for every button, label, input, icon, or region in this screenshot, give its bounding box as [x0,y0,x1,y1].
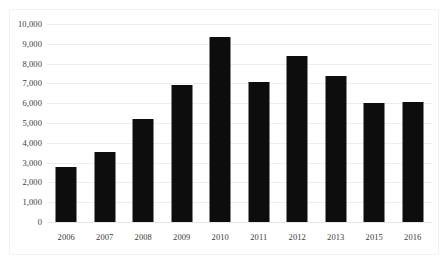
bar-slot [47,24,86,222]
x-axis-tick-label: 2006 [58,232,75,242]
x-axis-tick-label: 2013 [327,232,344,242]
bar[interactable] [171,85,192,222]
gridline [47,222,432,223]
plot-area [47,24,432,222]
x-tick-slot: 2016 [394,226,433,244]
bar-slot [201,24,240,222]
bar[interactable] [210,37,231,222]
y-axis-tick-label: 6,000 [22,99,42,108]
bar-slot [163,24,202,222]
bar[interactable] [287,56,308,222]
y-axis-tick-label: 8,000 [22,59,42,68]
y-axis-tick-label: 0 [38,218,42,227]
bar[interactable] [402,102,423,222]
bar-slot [355,24,394,222]
x-axis-tick-label: 2010 [212,232,229,242]
x-axis-tick-label: 2008 [135,232,152,242]
x-tick-slot: 2011 [240,226,279,244]
x-tick-slot: 2013 [317,226,356,244]
x-tick-slot: 2015 [355,226,394,244]
x-tick-slot: 2012 [278,226,317,244]
bar-slot [86,24,125,222]
x-tick-slot: 2008 [124,226,163,244]
y-axis-tick-label: 10,000 [18,20,42,29]
x-axis-tick-label: 2015 [366,232,383,242]
x-axis-tick-label: 2011 [250,232,267,242]
bar-slot [278,24,317,222]
x-tick-slot: 2007 [86,226,125,244]
x-axis-tick-label: 2007 [96,232,113,242]
y-axis-tick-label: 9,000 [22,40,42,49]
bar[interactable] [133,119,154,222]
y-axis-tick-label: 7,000 [22,79,42,88]
bar[interactable] [325,76,346,222]
y-axis-tick-label: 4,000 [22,139,42,148]
y-axis-tick-label: 2,000 [22,178,42,187]
x-tick-slot: 2009 [163,226,202,244]
x-tick-slot: 2010 [201,226,240,244]
bar-chart-figure: 10,0009,0008,0007,0006,0005,0004,0003,00… [0,0,448,264]
bar-slot [394,24,433,222]
x-axis-tick-labels: 2006200720082009201020112012201320152016 [47,226,432,246]
y-axis-tick-label: 5,000 [22,119,42,128]
y-axis-tick-label: 3,000 [22,158,42,167]
x-axis-tick-label: 2016 [404,232,421,242]
bar[interactable] [94,152,115,222]
x-axis-tick-label: 2012 [289,232,306,242]
x-axis-tick-label: 2009 [173,232,190,242]
bar-slot [124,24,163,222]
y-axis-tick-labels: 10,0009,0008,0007,0006,0005,0004,0003,00… [0,0,47,264]
bar-slot [317,24,356,222]
bar[interactable] [248,82,269,222]
bar[interactable] [364,103,385,222]
bar[interactable] [56,167,77,222]
y-axis-tick-label: 1,000 [22,198,42,207]
bar-slot [240,24,279,222]
x-tick-slot: 2006 [47,226,86,244]
bars-layer [47,24,432,222]
